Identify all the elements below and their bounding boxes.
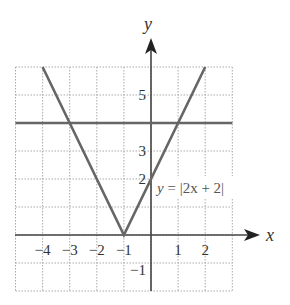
graph-canvas: −4−3−2−112532−1 x y y = |2x + 2| [0,0,290,305]
y-axis-label: y [142,14,152,34]
x-tick-label: −3 [62,242,78,258]
x-axis-label: x [265,225,274,245]
y-tick-label: −1 [130,262,146,278]
x-tick-label: −2 [89,242,105,258]
x-tick-label: −4 [35,242,51,258]
x-tick-label: −1 [116,242,132,258]
y-tick-label: 5 [139,87,147,103]
axes [15,38,260,291]
y-tick-label: 3 [139,143,147,159]
y-tick-label: 2 [139,171,147,187]
x-tick-label: 1 [174,242,182,258]
x-tick-label: 2 [201,242,209,258]
equation-label: y = |2x + 2| [155,180,224,196]
